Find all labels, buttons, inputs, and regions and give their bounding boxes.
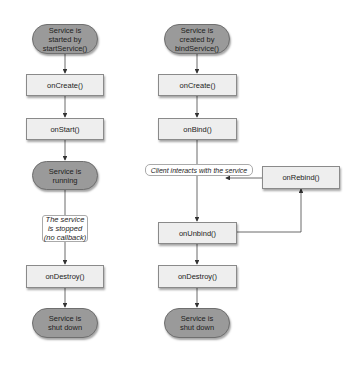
created-by-bindservice-node: Service is created by bindService() (164, 24, 230, 54)
node-text-line: startService() (43, 44, 88, 53)
node-label: onDestroy() (178, 272, 217, 281)
left-ondestroy-node: onDestroy() (26, 265, 104, 288)
onunbind-node: onUnbind() (158, 222, 237, 244)
left-shutdown-node: Service is shut down (32, 308, 98, 338)
note-text-line: (no callback) (44, 233, 87, 242)
left-oncreate-node: onCreate() (26, 74, 104, 96)
note-text-line: is stopped (44, 224, 87, 233)
service-stopped-note: The service is stopped (no callback) (42, 215, 88, 242)
node-text-line: shut down (180, 323, 214, 332)
node-text-line: shut down (48, 323, 82, 332)
right-shutdown-node: Service is shut down (164, 308, 230, 338)
node-text-line: Service is (48, 314, 82, 323)
onbind-node: onBind() (158, 118, 237, 140)
node-text-line: Service is (43, 26, 88, 35)
started-by-startservice-node: Service is started by startService() (32, 24, 98, 54)
node-text-line: started by (43, 35, 88, 44)
service-running-node: Service is running (32, 161, 98, 190)
node-label: onDestroy() (45, 272, 84, 281)
node-text-line: created by (175, 35, 219, 44)
label-text: Client interacts with the service (151, 166, 247, 175)
note-text-line: The service (44, 215, 87, 224)
node-label: onUnbind() (179, 229, 216, 238)
node-label: onBind() (183, 125, 211, 134)
onstart-node: onStart() (26, 118, 104, 140)
right-oncreate-node: onCreate() (158, 74, 237, 96)
node-text-line: Service is (49, 167, 82, 176)
node-label: onStart() (50, 125, 79, 134)
service-lifecycle-diagram: Service is started by startService() onC… (0, 0, 362, 365)
node-label: onCreate() (180, 81, 216, 90)
node-text-line: bindService() (175, 44, 219, 53)
client-interacts-label: Client interacts with the service (145, 164, 253, 176)
right-ondestroy-node: onDestroy() (158, 265, 237, 288)
node-text-line: Service is (180, 314, 214, 323)
node-label: onCreate() (47, 81, 83, 90)
node-text-line: running (49, 176, 82, 185)
node-text-line: Service is (175, 26, 219, 35)
node-label: onRebind() (282, 173, 319, 182)
onrebind-node: onRebind() (262, 166, 340, 189)
